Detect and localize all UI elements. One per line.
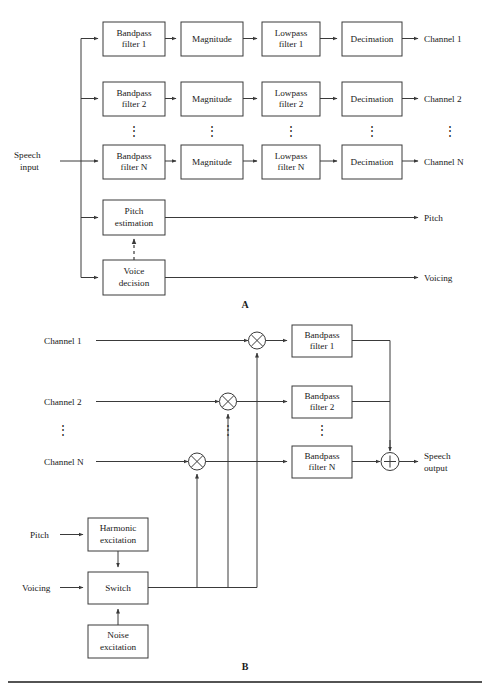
synth-bandpass-n-line1: Bandpass [304,451,340,461]
panel-a-label: A [241,299,249,310]
vocoder-block-diagram: Speech input Bandpass filter 1 Magnitude… [0,0,490,688]
speech-input-line1: Speech [14,150,41,160]
multiplier-2[interactable] [220,393,237,410]
analysis-row-1: Bandpass filter 1 Magnitude Lowpass filt… [81,22,462,56]
magnitude-n-label: Magnitude [192,157,232,167]
speech-output-line1: Speech [424,451,451,461]
pitch-estimation-line1: Pitch [125,206,144,216]
pitch-output-label: Pitch [424,213,443,223]
speech-input-line2: input [20,162,39,172]
multiplier-n[interactable] [189,453,206,470]
voice-decision-group: Voice decision Voicing [81,260,453,295]
ellipsis-synth-bandpass-column: ⋮ [316,423,328,437]
lowpass-filter-1-line2: filter 1 [279,39,304,49]
channel-n-input-label: Channel N [44,457,84,467]
channel-2-input-label: Channel 2 [44,397,82,407]
lowpass-filter-1-line1: Lowpass [275,28,308,38]
synth-bandpass-2-line1: Bandpass [304,391,340,401]
decimation-1-label: Decimation [351,34,394,44]
voice-decision-line2: decision [119,278,150,288]
analysis-row-2: Bandpass filter 2 Magnitude Lowpass filt… [81,82,462,116]
multiplier-1[interactable] [249,332,266,349]
voicing-input-label: Voicing [22,583,51,593]
analysis-row-n: Bandpass filter N Magnitude Lowpass filt… [81,145,464,179]
ellipsis-bandpass-column: ⋮ [128,124,140,138]
lowpass-filter-2-line2: filter 2 [279,99,304,109]
synthesis-row-n: Channel N Bandpass filter N [44,446,380,478]
synth-bandpass-2-line2: filter 2 [310,402,335,412]
panel-b-label: B [242,661,249,672]
speech-input-label: Speech input [14,150,41,172]
voicing-output-label: Voicing [424,273,453,283]
panel-a-analysis: Speech input Bandpass filter 1 Magnitude… [14,22,464,310]
channel-n-output-label: Channel N [424,157,464,167]
lowpass-filter-n-line2: filter N [278,162,305,172]
lowpass-filter-2-line1: Lowpass [275,88,308,98]
analysis-ellipsis-row: ⋮ ⋮ ⋮ ⋮ ⋮ [128,124,456,138]
bandpass-filter-2-line1: Bandpass [116,88,152,98]
channel-1-input-label: Channel 1 [44,336,82,346]
synthesis-ellipsis-row: ⋮ ⋮ ⋮ [57,423,328,437]
ellipsis-channel-input-column: ⋮ [57,423,69,437]
decimation-n-label: Decimation [351,157,394,167]
synthesis-row-2: Channel 2 Bandpass filter 2 [44,386,390,418]
pitch-estimation-group: Pitch estimation Pitch [81,200,443,235]
speech-output-line2: output [424,463,448,473]
lowpass-filter-n-line1: Lowpass [275,151,308,161]
bandpass-filter-n-line2: filter N [121,162,148,172]
bandpass-filter-2-line2: filter 2 [122,99,147,109]
bandpass-filter-1-line2: filter 1 [122,39,147,49]
synth-bandpass-n-line2: filter N [309,462,336,472]
noise-excitation-line1: Noise [107,630,128,640]
channel-2-output-label: Channel 2 [424,94,462,104]
ellipsis-magnitude-column: ⋮ [206,124,218,138]
decimation-2-label: Decimation [351,94,394,104]
harmonic-excitation-line2: excitation [100,535,137,545]
channel-1-output-label: Channel 1 [424,34,462,44]
synth-bandpass-1-line2: filter 1 [310,341,335,351]
ellipsis-decimation-column: ⋮ [366,124,378,138]
switch-label: Switch [105,583,131,593]
noise-excitation-line2: excitation [100,642,137,652]
voice-decision-line1: Voice [124,266,145,276]
bandpass-filter-1-line1: Bandpass [116,28,152,38]
magnitude-2-label: Magnitude [192,94,232,104]
ellipsis-lowpass-column: ⋮ [285,124,297,138]
pitch-estimation-line2: estimation [115,218,154,228]
bandpass-filter-n-line1: Bandpass [116,151,152,161]
wire-bp1-to-summer-bus [352,341,390,451]
panel-b-synthesis: Channel 1 Bandpass filter 1 Channel 2 [22,325,451,672]
synth-bandpass-1-line1: Bandpass [304,330,340,340]
ellipsis-channel-column: ⋮ [444,124,456,138]
magnitude-1-label: Magnitude [192,34,232,44]
harmonic-excitation-line1: Harmonic [100,523,137,533]
summing-junction[interactable] [381,453,399,471]
pitch-input-label: Pitch [30,530,49,540]
